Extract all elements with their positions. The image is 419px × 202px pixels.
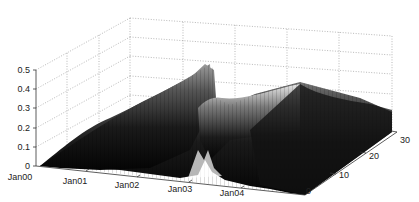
svg-text:Jan00: Jan00: [8, 172, 33, 182]
svg-text:Jan01: Jan01: [63, 176, 88, 186]
svg-text:Jan04: Jan04: [220, 188, 245, 198]
svg-text:0.4: 0.4: [17, 84, 30, 94]
svg-text:0: 0: [25, 161, 30, 171]
svg-text:0.5: 0.5: [17, 65, 30, 75]
svg-text:0.1: 0.1: [17, 142, 30, 152]
svg-text:0: 0: [306, 186, 311, 196]
svg-text:30: 30: [400, 135, 410, 145]
svg-text:10: 10: [339, 170, 349, 180]
surface-chart: 0.5 0.4 0.3 0.2 0.1 0 Jan00 Jan01 Jan02 …: [0, 0, 419, 202]
svg-text:0.3: 0.3: [17, 103, 30, 113]
svg-text:0.2: 0.2: [17, 123, 30, 133]
svg-text:Jan03: Jan03: [168, 184, 193, 194]
svg-text:20: 20: [369, 151, 379, 161]
z-tick-labels: 0.5 0.4 0.3 0.2 0.1 0: [17, 65, 30, 171]
svg-text:Jan02: Jan02: [115, 180, 140, 190]
